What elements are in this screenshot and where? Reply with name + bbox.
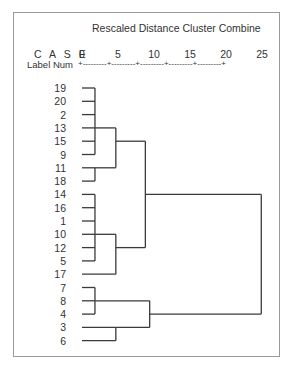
dendrogram-plot — [0, 0, 290, 368]
